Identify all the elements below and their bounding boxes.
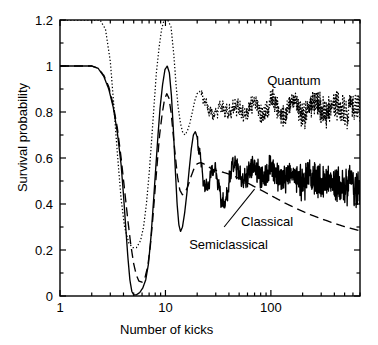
series-quantum xyxy=(60,20,360,248)
chart-canvas xyxy=(0,0,378,345)
tick-label: 0 xyxy=(46,289,53,304)
annotation-quantum: Quantum xyxy=(267,73,320,88)
y-axis-label: Survival probability xyxy=(15,68,30,208)
tick-label: 10 xyxy=(158,300,172,315)
figure: Survival probability Number of kicks Qua… xyxy=(0,0,378,345)
annotation-classical: Classical xyxy=(241,214,293,229)
tick-label: 1.2 xyxy=(35,13,53,28)
tick-label: 100 xyxy=(260,300,282,315)
tick-label: 0.4 xyxy=(35,197,53,212)
tick-label: 0.6 xyxy=(35,151,53,166)
x-axis-label: Number of kicks xyxy=(120,322,213,337)
tick-label: 1 xyxy=(56,300,63,315)
tick-label: 0.2 xyxy=(35,243,53,258)
tick-label: 0.8 xyxy=(35,105,53,120)
tick-label: 1 xyxy=(46,59,53,74)
annotation-semiclassical: Semiclassical xyxy=(189,237,268,252)
